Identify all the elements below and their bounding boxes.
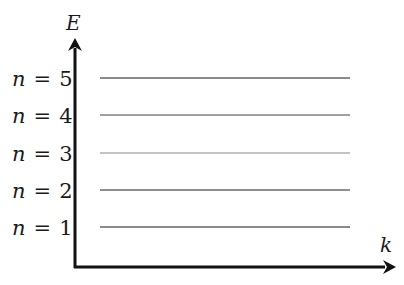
level-label: n=3 bbox=[12, 142, 73, 166]
energy-axis-label: E bbox=[65, 11, 81, 35]
level-label: n=5 bbox=[12, 67, 73, 91]
level-label: n=4 bbox=[12, 104, 73, 128]
level-label: n=1 bbox=[12, 216, 73, 240]
wavevector-axis-label: k bbox=[380, 233, 392, 257]
energy-diagram: E k n=5 n=4 n=3 n=2 n=1 bbox=[0, 0, 404, 285]
energy-level-2: n=2 bbox=[12, 179, 350, 203]
energy-level-3: n=3 bbox=[12, 142, 350, 166]
energy-level-4: n=4 bbox=[12, 104, 350, 128]
energy-level-1: n=1 bbox=[12, 216, 350, 240]
level-label: n=2 bbox=[12, 179, 73, 203]
energy-level-5: n=5 bbox=[12, 67, 350, 91]
